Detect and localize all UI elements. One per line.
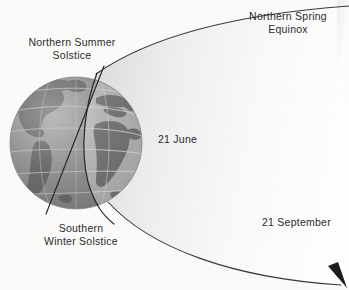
label-date-june: 21 June [158, 133, 220, 146]
label-southern-winter-solstice: Southern Winter Solstice [22, 222, 140, 248]
label-date-september: 21 September [262, 216, 346, 229]
seasons-diagram: Northern Spring Equinox Northern Summer … [0, 0, 349, 290]
label-northern-spring-equinox: Northern Spring Equinox [232, 10, 344, 36]
label-northern-summer-solstice: Northern Summer Solstice [8, 36, 136, 62]
